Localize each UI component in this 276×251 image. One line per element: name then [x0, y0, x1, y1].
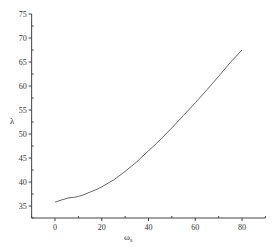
y-tick-label: 45: [19, 154, 27, 163]
x-tick-label: 40: [145, 223, 153, 232]
y-tick-label: 70: [19, 34, 27, 43]
y-tick-label: 40: [19, 178, 27, 187]
y-tick-label: 35: [19, 202, 27, 211]
x-axis-label-subscript: s: [130, 237, 133, 243]
data-line: [55, 50, 242, 202]
y-tick-label: 65: [19, 58, 27, 67]
x-tick-label: 20: [98, 223, 106, 232]
x-tick-label: 0: [53, 223, 57, 232]
y-tick-label: 50: [19, 130, 27, 139]
line-chart: 354045505560657075020406080 λ ωs: [0, 0, 276, 251]
y-axis-label: λ: [10, 116, 15, 126]
axes: [32, 14, 266, 218]
y-tick-label: 60: [19, 82, 27, 91]
x-tick-label: 80: [238, 223, 246, 232]
axis-ticks: [29, 14, 266, 221]
x-axis-label: ωs: [124, 232, 133, 243]
y-tick-label: 75: [19, 10, 27, 19]
x-tick-label: 60: [191, 223, 199, 232]
tick-labels: 354045505560657075020406080: [19, 10, 246, 232]
y-tick-label: 55: [19, 106, 27, 115]
